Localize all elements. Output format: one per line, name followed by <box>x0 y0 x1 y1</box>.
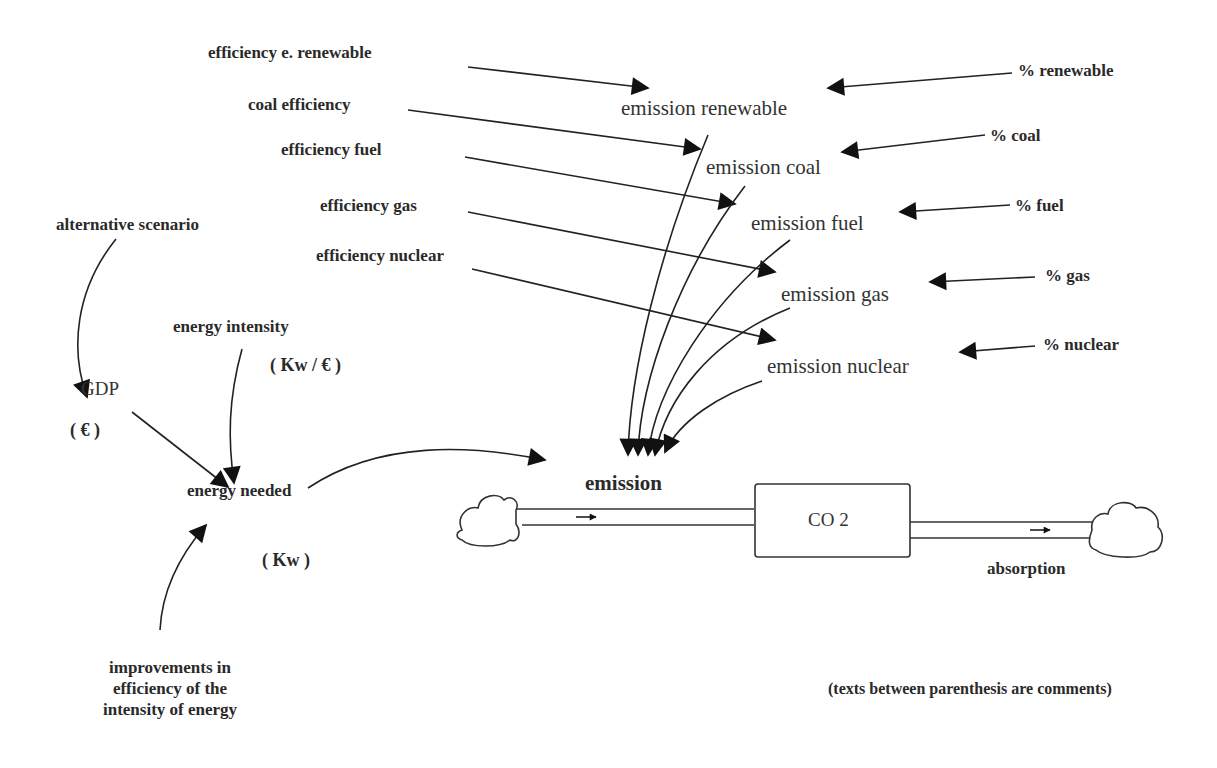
emission-fuel-node: emission fuel <box>751 213 864 234</box>
alternative-scenario-label: alternative scenario <box>56 216 199 233</box>
improvements-line-1: improvements in <box>70 657 270 678</box>
efficiency-fuel-label: efficiency fuel <box>281 141 382 158</box>
emission-gas-node: emission gas <box>781 284 889 305</box>
gdp-node: GDP <box>81 379 119 398</box>
pct-coal-label: % coal <box>990 127 1041 144</box>
emission-flow-label: emission <box>585 473 662 494</box>
efficiency-nuclear-label: efficiency nuclear <box>316 247 444 264</box>
energy-intensity-label: energy intensity <box>173 318 289 335</box>
connector-arrows <box>0 0 1217 768</box>
gdp-unit-comment: ( € ) <box>70 421 100 439</box>
emission-coal-node: emission coal <box>706 157 821 178</box>
absorption-flow-label: absorption <box>987 560 1065 577</box>
energy-needed-unit-comment: ( Kw ) <box>262 551 310 569</box>
pct-renewable-label: % renewable <box>1018 62 1114 79</box>
emission-nuclear-node: emission nuclear <box>767 356 909 377</box>
improvements-line-2: efficiency of the <box>70 678 270 699</box>
co2-stock-label: CO 2 <box>808 510 849 529</box>
pct-gas-label: % gas <box>1045 267 1090 284</box>
efficiency-gas-label: efficiency gas <box>320 197 417 214</box>
efficiency-renewable-label: efficiency e. renewable <box>208 44 371 61</box>
energy-intensity-unit-comment: ( Kw / € ) <box>270 356 341 374</box>
improvements-line-3: intensity of energy <box>70 699 270 720</box>
improvements-efficiency-label: improvements in efficiency of the intens… <box>70 657 270 720</box>
pct-fuel-label: % fuel <box>1015 197 1064 214</box>
energy-needed-node: energy needed <box>187 482 291 499</box>
comments-note: (texts between parenthesis are comments) <box>828 681 1112 697</box>
coal-efficiency-label: coal efficiency <box>248 96 350 113</box>
emission-renewable-node: emission renewable <box>621 98 787 119</box>
pct-nuclear-label: % nuclear <box>1043 336 1119 353</box>
